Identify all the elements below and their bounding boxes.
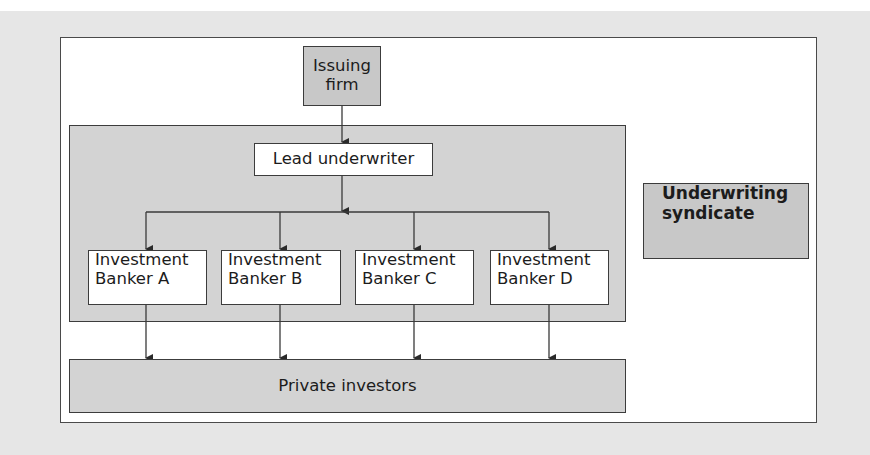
legend-label-line1: Underwriting — [662, 184, 788, 204]
node-private-investors: Private investors — [69, 359, 626, 413]
node-investment-banker-b: Investment Banker B — [221, 250, 341, 305]
node-investment-banker-d: Investment Banker D — [490, 250, 609, 305]
banker-a-label-line1: Investment — [95, 251, 188, 270]
node-investment-banker-c: Investment Banker C — [355, 250, 474, 305]
lead-underwriter-label: Lead underwriter — [273, 150, 414, 169]
issuing-firm-label-line1: Issuing — [313, 57, 371, 76]
node-investment-banker-a: Investment Banker A — [88, 250, 207, 305]
issuing-firm-label-line2: firm — [326, 76, 359, 95]
legend-label-line2: syndicate — [662, 204, 755, 224]
node-lead-underwriter: Lead underwriter — [254, 143, 433, 176]
banker-c-label-line1: Investment — [362, 251, 455, 270]
banker-b-label-line1: Investment — [228, 251, 321, 270]
banker-d-label-line1: Investment — [497, 251, 590, 270]
banker-b-label-line2: Banker B — [228, 270, 302, 289]
banker-a-label-line2: Banker A — [95, 270, 169, 289]
private-investors-label: Private investors — [278, 377, 416, 396]
legend-underwriting-syndicate: Underwriting syndicate — [643, 183, 809, 259]
node-issuing-firm: Issuing firm — [303, 46, 381, 106]
banker-d-label-line2: Banker D — [497, 270, 573, 289]
banker-c-label-line2: Banker C — [362, 270, 437, 289]
